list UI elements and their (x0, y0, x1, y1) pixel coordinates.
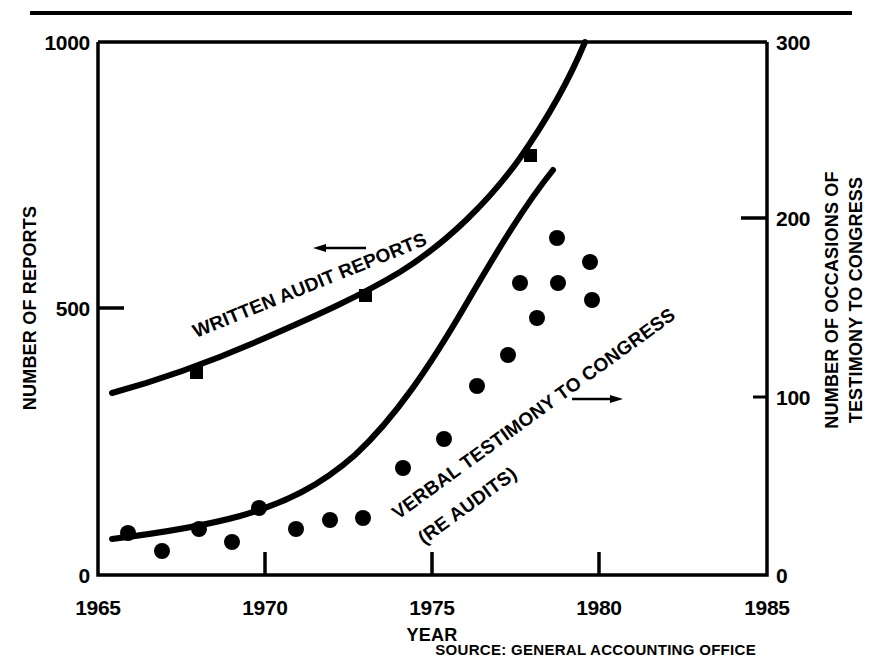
x-tick-1970: 1970 (242, 596, 288, 619)
right-axis-title-line1: NUMBER OF OCCASIONS OF (822, 171, 842, 428)
left-arrow-icon (313, 244, 366, 252)
right-arrow-icon (572, 395, 623, 403)
series-written-audit-reports-curve (112, 42, 585, 393)
x-tick-1985: 1985 (744, 596, 790, 619)
chart-figure: 1000 500 0 300 200 100 0 1965 1970 1975 … (0, 0, 882, 671)
right-axis-title-line2: TESTIMONY TO CONGRESS (846, 177, 866, 424)
left-axis-title: NUMBER OF REPORTS (20, 206, 40, 410)
x-axis-ticks (265, 552, 599, 575)
series-verbal-testimony-scatter (120, 230, 600, 559)
chart-canvas: 1000 500 0 300 200 100 0 1965 1970 1975 … (0, 0, 882, 671)
series-label-verbal-testimony-line1: VERBAL TESTIMONY TO CONGRESS (388, 304, 679, 523)
source-note: SOURCE: GENERAL ACCOUNTING OFFICE (435, 641, 756, 658)
series-label-written-audit-reports: WRITTEN AUDIT REPORTS (190, 228, 430, 341)
left-tick-0: 0 (79, 564, 90, 587)
right-tick-200: 200 (776, 207, 810, 230)
x-tick-1965: 1965 (75, 596, 121, 619)
x-tick-1975: 1975 (409, 596, 455, 619)
x-tick-1980: 1980 (576, 596, 622, 619)
left-tick-1000: 1000 (44, 31, 90, 54)
right-tick-100: 100 (776, 386, 810, 409)
right-tick-300: 300 (776, 31, 810, 54)
right-tick-0: 0 (776, 564, 787, 587)
right-axis-ticks (741, 218, 767, 397)
left-tick-500: 500 (56, 297, 90, 320)
